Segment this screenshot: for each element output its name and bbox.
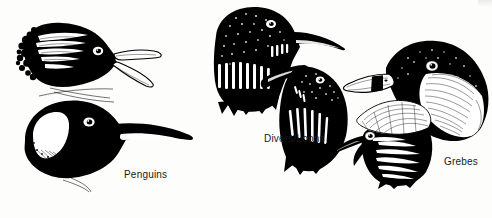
lower-mandible bbox=[113, 62, 153, 87]
group-label-grebes: Grebes bbox=[444, 157, 478, 167]
crested-grebe-head bbox=[334, 84, 454, 189]
stray-contour-line bbox=[39, 89, 113, 96]
grebe-eye-lower bbox=[365, 132, 375, 140]
group-label-divers-loons: Divers/Loons bbox=[264, 134, 325, 144]
group-label-penguins: Penguins bbox=[124, 170, 167, 180]
loon-eye-lower bbox=[316, 77, 324, 84]
loon-eye-upper bbox=[266, 20, 276, 28]
grebe-eye-upper bbox=[426, 61, 438, 71]
group-penguins: Penguins bbox=[10, 10, 175, 105]
group-grebes: Grebes bbox=[336, 34, 492, 144]
king-penguin-head bbox=[15, 88, 205, 193]
penguin-eye-upper bbox=[93, 47, 103, 55]
page-corner-artifact bbox=[478, 0, 492, 7]
group-divers-loons: Divers/Loons bbox=[196, 2, 346, 117]
illustration-plate: Penguins bbox=[0, 0, 492, 218]
throat-contour bbox=[71, 178, 91, 192]
